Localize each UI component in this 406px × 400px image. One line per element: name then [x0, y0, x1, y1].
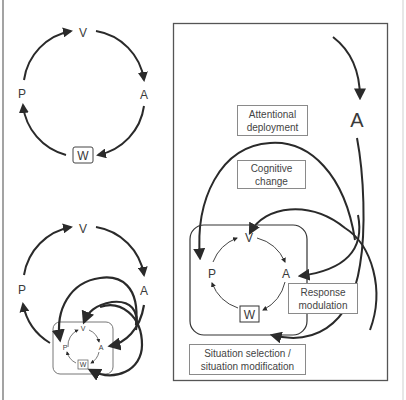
- label-line-2: situation modification: [201, 360, 294, 373]
- label-line-2: deployment: [247, 121, 299, 134]
- label-line-1: Cognitive: [251, 162, 293, 175]
- outer-arrow-to-p: [23, 304, 50, 343]
- label-line-1: Response: [299, 286, 348, 299]
- arrow-into-top-a: [333, 37, 360, 98]
- loop-to-a: [300, 215, 359, 276]
- top-node-a: A: [350, 109, 364, 131]
- outer-node-p: P: [18, 283, 26, 297]
- arrow-a-to-w: [98, 106, 144, 155]
- label-line-2: change: [251, 175, 293, 188]
- inner-node-v: V: [81, 325, 86, 332]
- inner-arrow-v-a: [257, 238, 285, 262]
- label-situation-selection: Situation selection /situation modificat…: [189, 344, 306, 375]
- inner-arrow-a-w: [263, 282, 285, 310]
- outer-arrow-v-to-a: [96, 227, 144, 275]
- inner-node-p: P: [63, 344, 68, 351]
- emotion-regulation-diagram: V A W P V A P V A W P A: [0, 0, 406, 400]
- top-left-cycle: V A W P: [18, 26, 148, 163]
- inner-arrow-a-w: [91, 352, 99, 363]
- inner-arrow-v-a: [89, 330, 99, 342]
- outer-arrow-p-to-v: [24, 227, 71, 275]
- node-p: P: [18, 87, 26, 101]
- label-attentional-deployment: Attentionaldeployment: [237, 105, 308, 136]
- node-v: V: [79, 26, 87, 40]
- inner-node-a: A: [99, 344, 104, 351]
- label-response-modulation: Responsemodulation: [288, 283, 358, 314]
- label-line-1: Attentional: [247, 108, 299, 121]
- label-cognitive-change: Cognitivechange: [237, 160, 306, 189]
- inner-arrow-w-p: [212, 283, 238, 308]
- arrow-p-to-v: [24, 31, 71, 80]
- inner-arrow-w-p: [67, 352, 76, 363]
- label-line-2: modulation: [299, 299, 348, 312]
- label-line-1: Situation selection /: [201, 347, 294, 360]
- node-w: W: [77, 149, 89, 163]
- inner-arrow-p-v: [213, 238, 237, 262]
- outer-node-v: V: [79, 222, 87, 236]
- inner-node-a: A: [282, 267, 290, 281]
- loop-to-inner-w: [90, 305, 142, 375]
- inner-arrow-p-v: [68, 330, 78, 347]
- inner-node-v: V: [245, 231, 253, 245]
- node-a: A: [140, 88, 148, 102]
- right-panel: A V A W P: [174, 24, 388, 381]
- arrow-v-to-a: [96, 31, 144, 80]
- arrow-w-to-p: [23, 105, 66, 155]
- inner-node-w: W: [244, 308, 256, 322]
- outer-node-a: A: [140, 284, 148, 298]
- inner-node-w: W: [80, 361, 87, 368]
- bottom-left-cycle: V A P V A W P: [18, 222, 148, 375]
- inner-node-p: P: [208, 267, 216, 281]
